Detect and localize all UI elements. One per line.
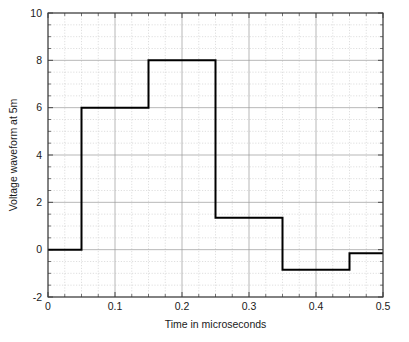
chart-canvas: 00.10.20.30.40.5 -20246810 Time in micro…	[0, 0, 409, 342]
x-axis-title: Time in microseconds	[165, 318, 267, 330]
x-tick-label: 0.2	[175, 300, 190, 312]
y-tick-label: 8	[36, 54, 42, 66]
x-tick-label: 0.3	[242, 300, 257, 312]
y-tick-label: 4	[36, 149, 42, 161]
y-tick-label: 0	[36, 243, 42, 255]
x-tick-label: 0.1	[108, 300, 123, 312]
x-tick-label: 0.5	[376, 300, 391, 312]
chart-figure: 00.10.20.30.40.5 -20246810 Time in micro…	[0, 0, 409, 342]
y-tick-label: 2	[36, 196, 42, 208]
x-tick-label: 0	[45, 300, 51, 312]
y-axis-title: Voltage waveform at 5m	[7, 98, 19, 211]
x-tick-label: 0.4	[309, 300, 324, 312]
y-tick-label: 6	[36, 101, 42, 113]
y-tick-label: 10	[30, 7, 42, 19]
y-tick-label: -2	[33, 291, 42, 303]
